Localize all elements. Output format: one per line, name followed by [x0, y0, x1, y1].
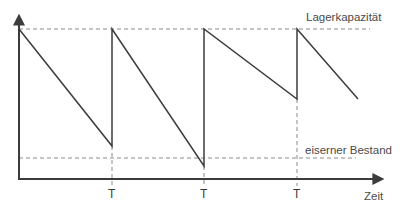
inventory-sawtooth-diagram: Lagerkapazität eiserner Bestand Zeit T T…: [0, 0, 408, 212]
tick-label-2: T: [200, 187, 208, 201]
x-axis-label: Zeit: [364, 190, 384, 202]
tick-label-1: T: [108, 187, 116, 201]
safety-stock-label: eiserner Bestand: [305, 144, 392, 156]
tick-label-3: T: [293, 187, 301, 201]
capacity-label: Lagerkapazität: [306, 11, 382, 23]
